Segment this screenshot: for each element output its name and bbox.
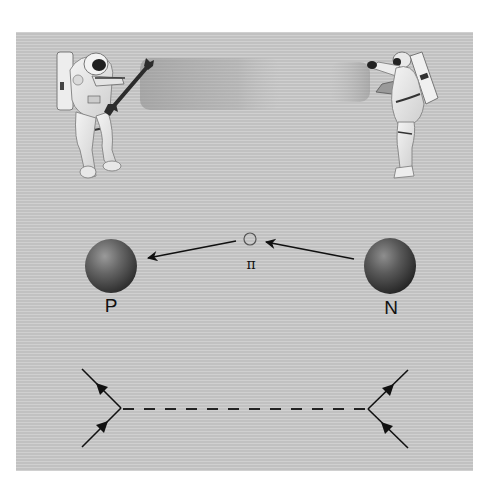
proton-label: P	[105, 296, 118, 315]
motion-blur-streak	[140, 58, 370, 110]
pion-particle	[244, 233, 256, 245]
right-vertex	[368, 370, 408, 448]
diagram-canvas	[0, 0, 495, 480]
neutron-label: N	[384, 298, 398, 317]
left-astronaut	[57, 52, 125, 178]
proton-sphere	[85, 239, 137, 293]
neutron-sphere	[364, 238, 416, 294]
arrow-neutron-to-pion	[266, 242, 354, 259]
arrow-pion-to-proton	[148, 241, 236, 258]
figure: P N π	[0, 0, 495, 480]
left-vertex	[82, 369, 121, 447]
right-astronaut	[367, 52, 438, 178]
feynman-diagram	[82, 369, 408, 448]
pion-label: π	[246, 257, 255, 271]
